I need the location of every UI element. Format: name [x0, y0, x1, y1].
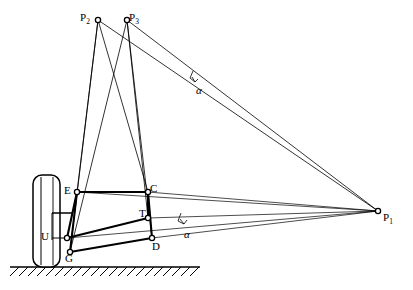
- line-U-P1: [67, 211, 378, 238]
- ground-hatching: [10, 267, 199, 276]
- alpha-lower-arrow-a: [184, 220, 187, 224]
- p1-construction-lines: [67, 192, 378, 238]
- p2p3-to-p1-lines: [98, 20, 378, 211]
- line-T-P1: [148, 211, 378, 218]
- line-P3-P1: [127, 20, 378, 211]
- linkage-diagram-svg: [0, 0, 413, 290]
- diagram-canvas: P1 P2 P3 E C T D U G α α: [0, 0, 413, 290]
- label-P2: P2: [80, 12, 90, 26]
- joint-E: [74, 189, 79, 194]
- line-C-P1: [148, 192, 378, 211]
- label-alpha-lower: α: [184, 229, 190, 240]
- joint-T: [145, 215, 150, 220]
- line-E-P1: [77, 192, 378, 211]
- line-P2-P1: [98, 20, 378, 211]
- label-D: D: [152, 241, 160, 252]
- label-G: G: [65, 253, 73, 264]
- label-P3: P3: [129, 12, 139, 26]
- joint-U: [64, 235, 69, 240]
- linkage-bars-group: [67, 192, 152, 252]
- label-P3-sub: 3: [135, 17, 139, 26]
- joints-group: [64, 17, 380, 254]
- label-U: U: [41, 231, 49, 242]
- alpha-lower-marker: [178, 213, 187, 224]
- line-P2-E: [77, 20, 98, 192]
- joint-P1: [375, 208, 380, 213]
- wheel-group: [33, 175, 60, 267]
- line-P3-G: [70, 20, 127, 252]
- label-E: E: [64, 185, 71, 196]
- label-P1: P1: [383, 212, 393, 226]
- label-T: T: [139, 208, 146, 219]
- line-P3-T: [127, 20, 148, 218]
- label-P1-sub: 1: [389, 217, 393, 226]
- bar-U-T: [67, 218, 148, 238]
- bar-G-D: [70, 238, 152, 252]
- alpha-upper-arrow-a: [195, 79, 198, 82]
- label-alpha-upper: α: [196, 85, 202, 96]
- joint-P2: [95, 17, 100, 22]
- wheel-outline: [33, 175, 60, 267]
- ground-group: [10, 267, 200, 276]
- label-P2-sub: 2: [86, 17, 90, 26]
- label-C: C: [150, 183, 157, 194]
